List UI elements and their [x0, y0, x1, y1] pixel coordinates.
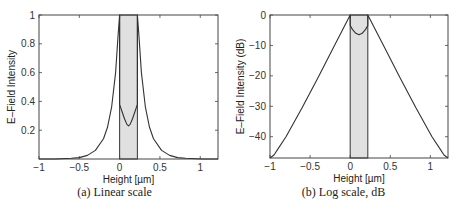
x-tick-label: 0.5 [383, 161, 397, 172]
x-tick-label: −0.5 [69, 162, 89, 173]
caption-log: (b) Log scale, dB [229, 185, 458, 200]
y-tick-label: −10 [249, 40, 266, 51]
caption-linear: (a) Linear scale [0, 185, 229, 200]
log-scale-chart: −1−0.500.510−10−20−30−40Height [µm]E–Fie… [229, 0, 458, 211]
x-tick-label: 1 [428, 161, 434, 172]
x-tick-label: 0 [117, 162, 123, 173]
x-tick-label: 0 [347, 161, 353, 172]
x-axis-label: Height [µm] [333, 173, 385, 184]
shaded-layer-region [350, 15, 368, 158]
y-tick-label: −30 [249, 101, 266, 112]
y-axis-label: E–Field Intensity (dB) [235, 39, 246, 135]
x-tick-label: 1 [197, 162, 203, 173]
x-tick-label: −0.5 [300, 161, 320, 172]
chart-panel-log: −1−0.500.510−10−20−30−40Height [µm]E–Fie… [229, 0, 458, 211]
y-tick-label: 0.6 [21, 67, 35, 78]
y-tick-label: 0.8 [21, 38, 35, 49]
x-tick-label: −1 [264, 161, 276, 172]
x-tick-label: −1 [33, 162, 45, 173]
y-tick-label: 1 [29, 10, 35, 21]
x-tick-label: 0.5 [153, 162, 167, 173]
x-axis-label: Height [µm] [103, 174, 155, 185]
y-tick-label: 0 [260, 10, 266, 21]
shaded-layer-region [120, 15, 138, 159]
y-tick-label: −40 [249, 131, 266, 142]
chart-panel-linear: −1−0.500.510.20.40.60.81Height [µm]E–Fie… [0, 0, 229, 211]
linear-scale-chart: −1−0.500.510.20.40.60.81Height [µm]E–Fie… [0, 0, 229, 211]
y-tick-label: 0.2 [21, 125, 35, 136]
y-tick-label: 0.4 [21, 96, 35, 107]
y-tick-label: −20 [249, 70, 266, 81]
y-axis-label: E–Field Intensity [6, 50, 17, 124]
